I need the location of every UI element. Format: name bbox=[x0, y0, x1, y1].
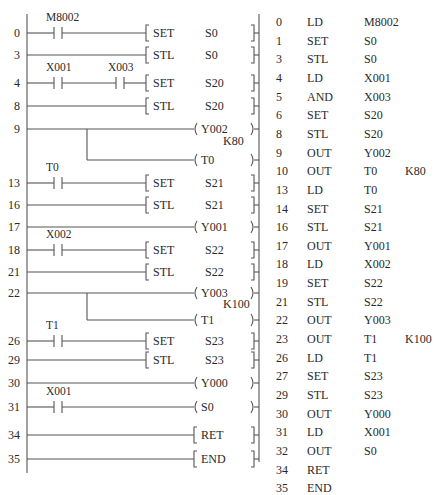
step-number: 3 bbox=[276, 53, 282, 65]
step-number: 35 bbox=[0, 453, 20, 465]
operand-label: S23 bbox=[205, 354, 224, 366]
operand: Y000 bbox=[364, 408, 391, 420]
step-number: 35 bbox=[276, 482, 288, 494]
instruction-bracket-icon bbox=[251, 98, 254, 114]
step-number: 4 bbox=[0, 77, 20, 89]
instruction-label: SET bbox=[153, 177, 174, 189]
step-number: 17 bbox=[0, 221, 20, 233]
instruction-bracket-icon bbox=[146, 98, 149, 114]
instruction-bracket-icon bbox=[146, 333, 149, 349]
opcode: OUT bbox=[307, 240, 332, 252]
step-number: 9 bbox=[276, 147, 282, 159]
step-number: 30 bbox=[276, 408, 288, 420]
opcode: STL bbox=[307, 53, 328, 65]
step-number: 3 bbox=[0, 49, 20, 61]
operand: S22 bbox=[364, 277, 383, 289]
step-number: 18 bbox=[0, 244, 20, 256]
opcode: LD bbox=[307, 258, 323, 270]
step-number: 27 bbox=[276, 370, 288, 382]
coil-icon bbox=[195, 401, 197, 413]
operand: X001 bbox=[364, 426, 391, 438]
operand-label: S0 bbox=[205, 49, 218, 61]
contact-label: T1 bbox=[46, 319, 59, 331]
coil-icon bbox=[251, 377, 253, 389]
instruction-label: STL bbox=[153, 354, 174, 366]
operand-label: S22 bbox=[205, 244, 224, 256]
contact-label: X003 bbox=[108, 61, 134, 73]
operand-label: S0 bbox=[205, 27, 218, 39]
operand-label: S21 bbox=[205, 177, 224, 189]
coil-operand: Y000 bbox=[201, 377, 228, 389]
coil-icon bbox=[195, 154, 197, 166]
instruction-label: RET bbox=[201, 429, 224, 441]
operand: S23 bbox=[364, 389, 383, 401]
operand: S20 bbox=[364, 109, 383, 121]
opcode: OUT bbox=[307, 445, 332, 457]
step-number: 29 bbox=[0, 354, 20, 366]
step-number: 0 bbox=[0, 27, 20, 39]
step-number: 34 bbox=[276, 464, 288, 476]
step-number: 31 bbox=[276, 426, 288, 438]
operand: Y002 bbox=[364, 147, 391, 159]
opcode: AND bbox=[307, 91, 333, 103]
step-number: 8 bbox=[276, 128, 282, 140]
constant: K100 bbox=[405, 333, 432, 345]
coil-icon bbox=[251, 314, 253, 326]
instruction-bracket-icon bbox=[146, 264, 149, 280]
operand: S23 bbox=[364, 370, 383, 382]
instruction-bracket-icon bbox=[146, 25, 149, 41]
opcode: LD bbox=[307, 426, 323, 438]
step-number: 1 bbox=[276, 35, 282, 47]
opcode: RET bbox=[307, 464, 330, 476]
instruction-bracket-icon bbox=[251, 25, 254, 41]
operand: M8002 bbox=[364, 16, 399, 28]
step-number: 26 bbox=[276, 352, 288, 364]
operand: S21 bbox=[364, 221, 383, 233]
step-number: 13 bbox=[276, 184, 288, 196]
operand: T1 bbox=[364, 333, 377, 345]
instruction-bracket-icon bbox=[251, 333, 254, 349]
step-number: 26 bbox=[0, 335, 20, 347]
coil-icon bbox=[251, 154, 253, 166]
step-number: 14 bbox=[276, 203, 288, 215]
coil-icon bbox=[251, 287, 253, 299]
coil-icon bbox=[251, 123, 253, 135]
step-number: 9 bbox=[0, 123, 20, 135]
instruction-bracket-icon bbox=[194, 451, 197, 467]
opcode: OUT bbox=[307, 333, 332, 345]
step-number: 0 bbox=[276, 16, 282, 28]
contact-label: X002 bbox=[46, 228, 72, 240]
instruction-label: SET bbox=[153, 244, 174, 256]
opcode: OUT bbox=[307, 408, 332, 420]
step-number: 6 bbox=[276, 109, 282, 121]
instruction-bracket-icon bbox=[146, 352, 149, 368]
opcode: SET bbox=[307, 370, 328, 382]
operand: X002 bbox=[364, 258, 391, 270]
instruction-bracket-icon bbox=[146, 242, 149, 258]
timer-preset: K100 bbox=[223, 298, 250, 310]
operand: S0 bbox=[364, 35, 377, 47]
coil-operand: T1 bbox=[201, 314, 214, 326]
instruction-bracket-icon bbox=[251, 175, 254, 191]
instruction-label: STL bbox=[153, 49, 174, 61]
opcode: LD bbox=[307, 16, 323, 28]
instruction-bracket-icon bbox=[146, 75, 149, 91]
operand: X001 bbox=[364, 72, 391, 84]
opcode: LD bbox=[307, 352, 323, 364]
instruction-label: STL bbox=[153, 100, 174, 112]
coil-icon bbox=[195, 221, 197, 233]
step-number: 8 bbox=[0, 100, 20, 112]
instruction-bracket-icon bbox=[251, 75, 254, 91]
step-number: 30 bbox=[0, 377, 20, 389]
instruction-bracket-icon bbox=[146, 197, 149, 213]
operand: S20 bbox=[364, 128, 383, 140]
coil-operand: T0 bbox=[201, 154, 214, 166]
operand: Y001 bbox=[364, 240, 391, 252]
coil-icon bbox=[195, 287, 197, 299]
instruction-label: STL bbox=[153, 199, 174, 211]
instruction-bracket-icon bbox=[251, 352, 254, 368]
step-number: 13 bbox=[0, 177, 20, 189]
step-number: 17 bbox=[276, 240, 288, 252]
step-number: 19 bbox=[276, 277, 288, 289]
instruction-label: SET bbox=[153, 335, 174, 347]
